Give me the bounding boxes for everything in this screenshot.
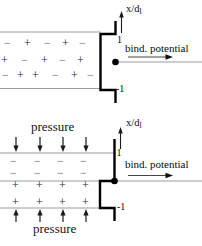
bottom-vaxis-label-main: x/d: [126, 117, 139, 128]
charge-symbol: −: [87, 69, 94, 81]
bottom-tick-plus-one: 1: [117, 148, 122, 158]
top-vaxis-arrowhead: [119, 11, 124, 18]
pressure-up-arrowhead: [37, 209, 42, 216]
charge-symbol: −: [59, 54, 66, 66]
pressure-down-arrows: [13, 137, 88, 152]
charge-symbol: +: [36, 179, 43, 191]
pressure-up-arrowhead: [13, 209, 18, 216]
bottom-potential-arrowhead: [166, 173, 174, 178]
charge-symbol: +: [36, 196, 43, 208]
charge-symbol: +: [17, 69, 24, 81]
charge-symbol: +: [62, 37, 69, 49]
pressure-label-bottom: pressure: [33, 222, 76, 235]
charge-symbol: −: [4, 37, 11, 49]
bottom-haxis-label: bind. potential: [125, 159, 189, 170]
top-haxis-label: bind. potential: [125, 43, 189, 54]
bottom-origin-dot: [111, 178, 118, 185]
charge-symbol: +: [77, 54, 84, 66]
charge-symbol: +: [12, 196, 19, 208]
charge-symbol: +: [24, 37, 31, 49]
charge-symbol: +: [82, 179, 89, 191]
charge-symbol: +: [59, 196, 66, 208]
charge-symbol: −: [2, 69, 9, 81]
bottom-vaxis-arrowhead: [118, 127, 123, 134]
top-vaxis-label-subscript: l: [139, 7, 141, 16]
charge-symbol: +: [59, 179, 66, 191]
charge-symbol: −: [79, 37, 86, 49]
top-tick-minus-one: -1: [116, 84, 124, 94]
bottom-tick-minus-one: -1: [117, 202, 125, 212]
charge-symbol: −: [21, 54, 28, 66]
top-potential-arrowhead: [166, 54, 174, 59]
top-vaxis-label: x/dl: [126, 4, 142, 16]
pressure-label-top: pressure: [31, 120, 74, 133]
pressure-down-arrowhead: [37, 146, 42, 153]
pressure-down-arrowhead: [83, 146, 88, 153]
charge-symbol: −: [52, 69, 59, 81]
pressure-down-arrowhead: [60, 146, 65, 153]
charge-symbol: +: [1, 54, 8, 66]
pressure-down-arrowhead: [13, 146, 18, 153]
bottom-vaxis-label-subscript: l: [139, 121, 141, 130]
pressure-up-arrowhead: [83, 209, 88, 216]
top-origin-dot: [112, 59, 119, 66]
charge-symbol: +: [41, 54, 48, 66]
charge-symbol: +: [32, 69, 39, 81]
charge-symbol: +: [82, 196, 89, 208]
pressure-up-arrowhead: [60, 209, 65, 216]
top-vaxis-label-main: x/d: [126, 3, 139, 14]
binding-potential-figure: x/dl 1 bind. potential -1 − + − + − + − …: [0, 0, 202, 246]
bottom-vaxis-label: x/dl: [126, 118, 142, 130]
charge-symbol: −: [44, 37, 51, 49]
charge-symbol: +: [12, 179, 19, 191]
charge-symbol: +: [71, 69, 78, 81]
top-tick-plus-one: 1: [117, 35, 122, 45]
